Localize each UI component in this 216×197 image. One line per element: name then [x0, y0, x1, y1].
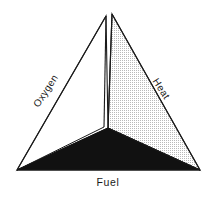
fire-tetrahedron-diagram: Oxygen Heat Fuel: [0, 0, 216, 197]
label-fuel: Fuel: [78, 177, 138, 188]
